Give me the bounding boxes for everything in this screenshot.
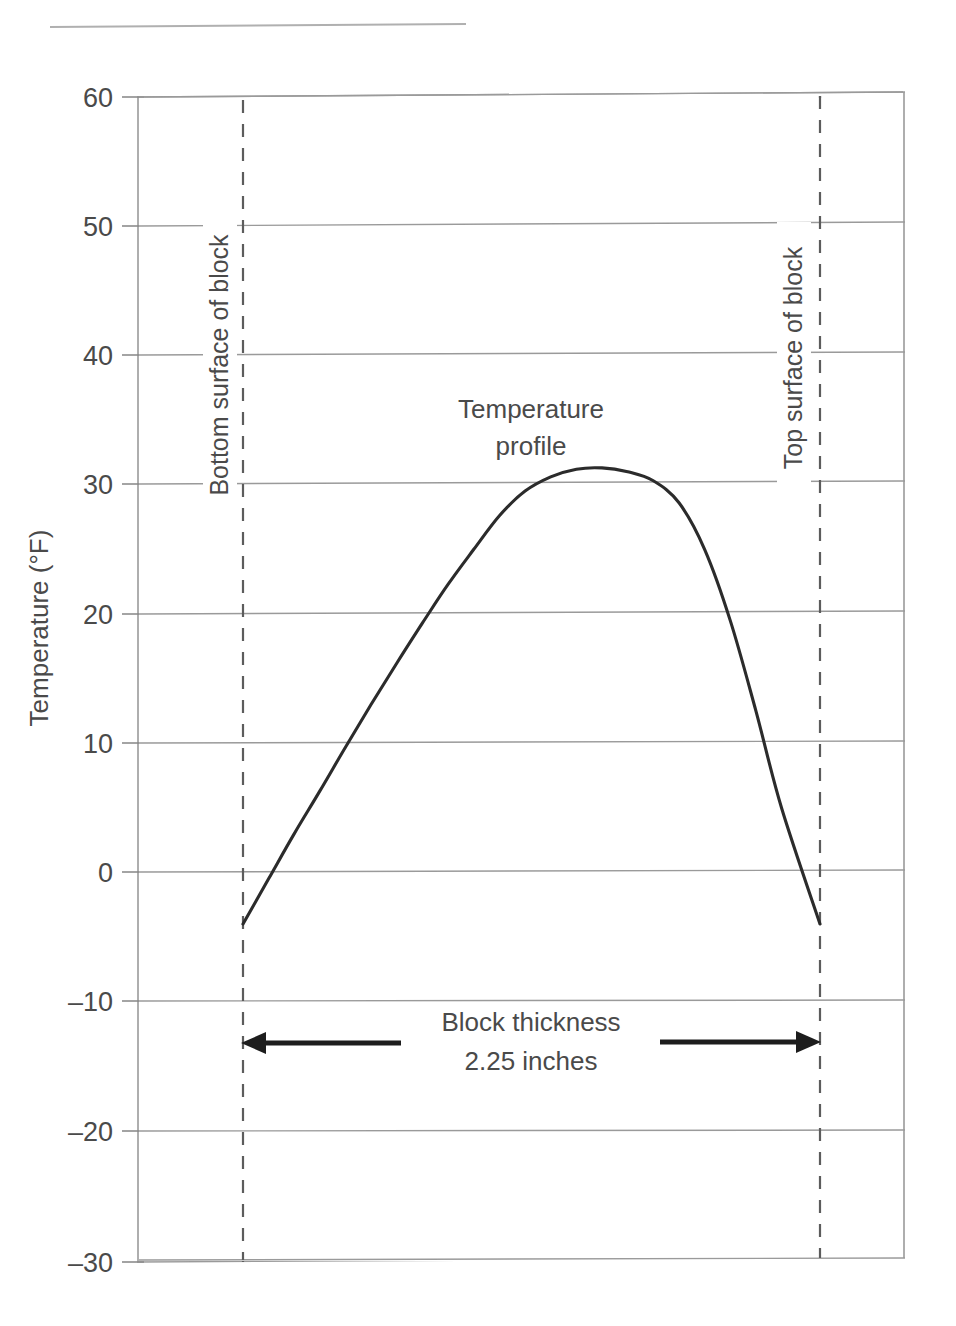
thickness-label-line2: 2.25 inches: [465, 1046, 598, 1076]
curve-label-line2: profile: [496, 431, 567, 461]
top-divider-rule: [50, 24, 466, 27]
bottom-surface-label-overlay: Bottom surface of block: [205, 234, 233, 496]
gridline-overlay-60: [139, 92, 903, 97]
thickness-label-line1: Block thickness: [441, 1007, 620, 1037]
curve-label-line1: Temperature: [458, 394, 604, 424]
y-tick-label-40: 40: [83, 341, 113, 371]
y-tick-label-20: 20: [83, 600, 113, 630]
y-tick-label-60: 60: [83, 83, 113, 113]
y-axis-title: Temperature (°F): [24, 530, 54, 727]
top-surface-label-overlay: Top surface of block: [779, 246, 807, 469]
y-tick-label-0: 0: [98, 858, 113, 888]
temperature-profile-figure: 60 50 40 30 20 10 0 –10 –20 –30 Temperat…: [0, 0, 956, 1326]
y-tick-label-50: 50: [83, 212, 113, 242]
gridline-overlay-minus-10: [139, 1000, 903, 1001]
y-tick-label-30: 30: [83, 470, 113, 500]
y-tick-label-minus-30: –30: [68, 1248, 113, 1278]
y-tick-label-minus-20: –20: [68, 1117, 113, 1147]
chart-canvas: 60 50 40 30 20 10 0 –10 –20 –30 Temperat…: [0, 0, 956, 1326]
y-tick-label-10: 10: [83, 729, 113, 759]
y-axis-tick-labels: 60 50 40 30 20 10 0 –10 –20 –30: [68, 83, 113, 1278]
y-tick-label-minus-10: –10: [68, 987, 113, 1017]
